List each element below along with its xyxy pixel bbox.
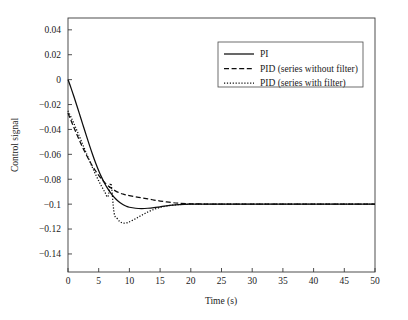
x-tick-label: 10	[125, 276, 135, 286]
x-tick-label: 35	[278, 276, 288, 286]
x-axis-ticks	[68, 268, 375, 272]
x-axis-tick-labels: 05101520253035404550	[66, 276, 380, 286]
x-tick-label: 0	[66, 276, 71, 286]
y-tick-label: −0.1	[44, 200, 61, 210]
x-tick-label: 5	[96, 276, 101, 286]
x-tick-label: 20	[186, 276, 196, 286]
y-tick-label: 0.02	[44, 50, 61, 60]
y-tick-label: −0.08	[39, 175, 61, 185]
y-tick-label: −0.12	[39, 224, 61, 234]
chart-legend: PIPID (series without filter)PID (series…	[218, 42, 363, 89]
x-tick-label: 25	[217, 276, 227, 286]
x-tick-label: 15	[155, 276, 165, 286]
y-tick-label: 0	[56, 75, 61, 85]
y-tick-label: −0.14	[39, 249, 61, 259]
x-axis-title: Time (s)	[205, 296, 237, 307]
data-series-group	[68, 80, 375, 223]
x-tick-label: 30	[247, 276, 257, 286]
x-tick-label: 40	[309, 276, 319, 286]
y-tick-label: −0.04	[39, 125, 61, 135]
x-tick-label: 50	[370, 276, 380, 286]
legend-label-2: PID (series with filter)	[260, 78, 346, 89]
legend-label-1: PID (series without filter)	[260, 64, 358, 75]
y-axis-ticks	[68, 30, 72, 254]
series-line-1	[68, 113, 375, 204]
x-tick-label: 45	[340, 276, 350, 286]
chart-figure: 05101520253035404550 0.040.020−0.02−0.04…	[0, 0, 408, 320]
legend-label-0: PI	[260, 49, 268, 59]
y-tick-label: 0.04	[44, 25, 61, 35]
y-axis-title: Control signal	[10, 118, 20, 172]
line-chart-svg: 05101520253035404550 0.040.020−0.02−0.04…	[0, 0, 408, 320]
series-line-2	[68, 111, 375, 223]
y-axis-tick-labels: 0.040.020−0.02−0.04−0.06−0.08−0.1−0.12−0…	[39, 25, 61, 259]
y-tick-label: −0.06	[39, 150, 61, 160]
series-line-0	[68, 80, 375, 209]
y-tick-label: −0.02	[39, 100, 61, 110]
